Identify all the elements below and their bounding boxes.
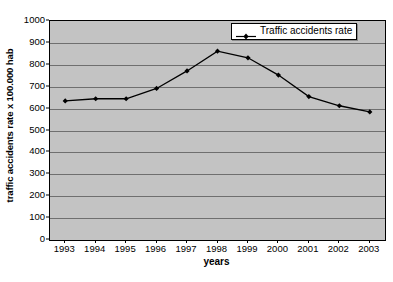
data-point-marker [124,96,129,101]
y-tick-label: 600 [29,103,45,113]
y-tick-label: 800 [29,59,45,69]
x-tick-label: 2002 [328,243,349,254]
chart-legend: Traffic accidents rate [231,23,357,40]
data-point-marker [63,98,68,103]
line-marker-icon [236,27,256,36]
x-tick-label: 1999 [236,243,257,254]
x-axis-title: years [49,256,384,267]
x-tick-label: 1995 [115,243,136,254]
y-axis-title: traffic accidents rate x 100.000 hab [0,0,20,250]
y-tick-label: 900 [29,37,45,47]
y-tick-label: 400 [29,146,45,156]
series-traffic-accidents-rate [50,21,385,240]
y-tick-label: 0 [40,234,45,244]
y-axis-title-text: traffic accidents rate x 100.000 hab [5,48,16,202]
x-tick-label: 2001 [297,243,318,254]
data-point-marker [367,109,372,114]
y-tick-label: 200 [29,190,45,200]
x-tick-label: 1997 [175,243,196,254]
y-tick-label: 100 [29,212,45,222]
y-tick-label: 500 [29,125,45,135]
data-point-marker [154,86,159,91]
series-line [65,51,370,112]
data-point-marker [337,103,342,108]
y-tick-label: 700 [29,81,45,91]
data-point-marker [93,96,98,101]
x-tick-label: 2000 [267,243,288,254]
x-tick-label: 1998 [206,243,227,254]
y-tick-label: 300 [29,168,45,178]
line-chart: traffic accidents rate x 100.000 hab 010… [0,0,393,282]
x-tick-label: 1996 [145,243,166,254]
x-tick-label: 1993 [54,243,75,254]
y-axis-tick-labels: 01002003004005006007008009001000 [20,20,49,239]
y-tick-label: 1000 [24,15,45,25]
x-axis-tick-labels: 1993199419951996199719981999200020012002… [49,241,384,255]
plot-area [49,20,386,241]
x-tick-label: 2003 [358,243,379,254]
legend-label-traffic-accidents-rate: Traffic accidents rate [260,25,352,37]
x-tick-label: 1994 [84,243,105,254]
data-point-marker [245,55,250,60]
